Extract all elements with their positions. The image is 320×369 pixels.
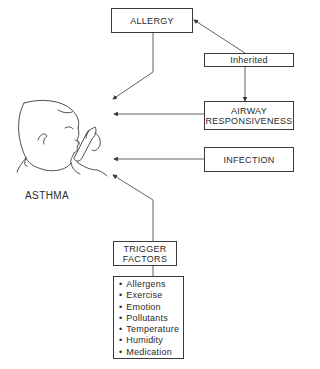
list-item: Temperature	[119, 324, 183, 335]
inherited-label: Inherited	[230, 55, 268, 65]
infection-label: INFECTION	[223, 155, 274, 165]
list-item: Medication	[119, 347, 183, 358]
trigger-label-line2: FACTORS	[123, 254, 167, 264]
infection-box: INFECTION	[204, 147, 294, 172]
list-item: Emotion	[119, 302, 183, 313]
inherited-box: Inherited	[204, 53, 294, 67]
airway-label-line2: RESPONSIVENESS	[205, 116, 292, 126]
list-item: Humidity	[119, 335, 183, 346]
trigger-factors-box: TRIGGER FACTORS	[113, 241, 177, 266]
trigger-label-line1: TRIGGER	[123, 244, 166, 254]
list-item: Allergens	[119, 279, 183, 290]
allergy-box: ALLERGY	[111, 8, 193, 33]
airway-label-line1: AIRWAY	[231, 106, 267, 116]
trigger-factors-list: Allergens Exercise Emotion Pollutants Te…	[113, 276, 184, 359]
list-item: Exercise	[119, 290, 183, 301]
airway-responsiveness-box: AIRWAY RESPONSIVENESS	[204, 101, 294, 130]
list-item: Pollutants	[119, 313, 183, 324]
asthma-label: ASTHMA	[25, 190, 69, 201]
allergy-label: ALLERGY	[130, 16, 174, 26]
